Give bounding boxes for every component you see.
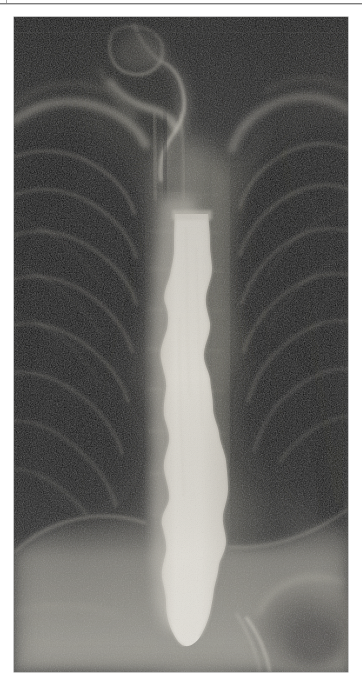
page-canvas: Frontal barium swallow radiograph of the… bbox=[0, 0, 362, 690]
exposure-gradient bbox=[14, 17, 348, 672]
barium-swallow-radiograph: Frontal barium swallow radiograph of the… bbox=[14, 17, 348, 672]
scan-seam-line bbox=[14, 32, 348, 33]
radiograph-anatomy-layer bbox=[14, 17, 348, 672]
radiograph-canvas bbox=[14, 17, 348, 672]
page-top-rule-shadow bbox=[0, 4, 362, 5]
